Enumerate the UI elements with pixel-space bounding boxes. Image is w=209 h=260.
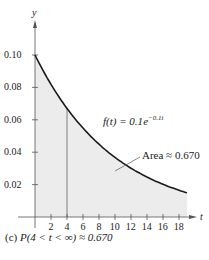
caption: (c) P(4 < t < ∞) ≈ 0.670 <box>5 231 113 243</box>
caption-label: (c) <box>5 231 17 243</box>
caption-text: P(4 < t < ∞) ≈ 0.670 <box>20 231 113 243</box>
x-tick-label: 14 <box>142 222 152 232</box>
x-axis-arrow-icon <box>189 215 197 219</box>
y-tick-label: 0.08 <box>4 82 22 92</box>
x-tick-label: 16 <box>158 222 168 232</box>
shaded-area <box>35 55 187 217</box>
function-label-exponent: −0.1t <box>148 114 163 122</box>
y-tick-label: 0.04 <box>4 147 22 157</box>
area-annotation: Area ≈ 0.670 <box>142 150 200 160</box>
y-tick-label: 0.10 <box>4 50 22 60</box>
y-tick-label: 0.02 <box>4 180 22 190</box>
x-tick-label: 12 <box>126 222 136 232</box>
x-tick-label: 18 <box>174 222 184 232</box>
x-axis-label: t <box>200 212 203 222</box>
y-tick-label: 0.06 <box>4 115 22 125</box>
y-axis-arrow-icon <box>33 20 37 28</box>
function-label: f(t) = 0.1e−0.1t <box>103 113 163 126</box>
y-axis-label: y <box>32 8 36 18</box>
function-label-prefix: f(t) = 0.1 <box>103 115 143 127</box>
